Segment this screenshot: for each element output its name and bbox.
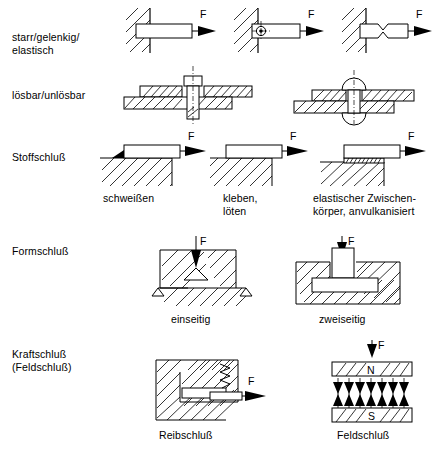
force-arrow — [185, 146, 206, 156]
force-label-kleben: F — [290, 130, 296, 142]
pole-north: N — [332, 362, 412, 376]
field-line — [399, 378, 409, 408]
field-lines — [333, 378, 409, 408]
support-right — [240, 288, 252, 296]
caption-kleben: kleben, löten — [223, 192, 258, 218]
field-line — [344, 378, 354, 408]
figure-starr: F — [118, 6, 218, 58]
diagram-sheet: starr/gelenkig/ elastisch F — [0, 0, 438, 454]
caption-schweissen: schweißen — [103, 192, 154, 205]
plate-upper-left — [312, 90, 346, 101]
pole-south: S — [332, 408, 412, 422]
figure-gelenkig: F — [226, 6, 326, 58]
caption-elastischer: elastischer Zwischen- körper, anvulkanis… — [313, 192, 416, 218]
force-arrow — [287, 146, 308, 156]
force-arrow — [245, 391, 266, 401]
bar-body — [124, 145, 180, 158]
base-body — [210, 158, 272, 186]
row-label-loesbar: lösbar/unlösbar — [12, 89, 85, 102]
force-label-f2: F — [308, 8, 314, 20]
bar-body — [226, 145, 282, 158]
caption-reibschluss: Reibschluß — [159, 429, 213, 442]
force-arrow — [306, 26, 324, 36]
figure-kleben: F — [210, 136, 330, 188]
force-arrow — [198, 26, 216, 36]
figure-zweiseitig: F — [294, 236, 406, 310]
spring — [220, 364, 230, 388]
t-element-flange — [312, 278, 378, 292]
row-label-starr: starr/gelenkig/ elastisch — [12, 31, 79, 57]
bar-body — [344, 145, 400, 158]
caption-einseitig: einseitig — [171, 313, 210, 326]
support-left — [152, 288, 164, 296]
figure-reibschluss: F — [152, 354, 268, 426]
caption-feldschluss: Feldschluß — [337, 429, 389, 442]
rod — [210, 392, 242, 400]
force-label-f1: F — [200, 8, 206, 20]
plate-upper-left — [140, 86, 182, 97]
figure-elastisch: F — [334, 6, 434, 58]
base-body — [320, 162, 384, 186]
plate-upper-right — [204, 86, 252, 97]
bar-necked-body — [360, 24, 408, 38]
row-label-formschluss: Formschluß — [12, 245, 68, 258]
force-label-zweiseitig: F — [348, 235, 354, 247]
force-label-elastischer: F — [408, 130, 414, 142]
force-arrow — [405, 146, 426, 156]
figure-elastischer-zwischenkoerper: F — [316, 136, 438, 188]
figure-einseitig: F — [150, 236, 254, 310]
field-line — [377, 378, 387, 408]
field-line — [366, 378, 376, 408]
bar-body — [136, 24, 192, 38]
row-label-stoffschluss: Stoffschluß — [12, 151, 65, 164]
field-line — [388, 378, 398, 408]
force-label-feldschluss: F — [378, 339, 384, 351]
plate-lower — [124, 97, 232, 109]
ground-body — [152, 288, 252, 306]
force-label-schweissen: F — [188, 130, 194, 142]
force-arrow — [191, 250, 201, 268]
figure-nietverbindung — [290, 64, 435, 124]
wedge-element — [184, 268, 208, 280]
row-label-kraftschluss: Kraftschluß (Feldschluß) — [12, 348, 72, 374]
force-label-einseitig: F — [200, 235, 206, 247]
force-arrow — [414, 26, 432, 36]
field-line — [333, 378, 343, 408]
weld-fillet — [112, 150, 124, 158]
base-body — [100, 158, 172, 186]
force-label-f3: F — [416, 8, 422, 20]
plate-lower — [294, 101, 394, 113]
pole-label-s: S — [368, 410, 375, 422]
field-line — [355, 378, 365, 408]
force-label-reibschluss: F — [248, 375, 254, 387]
force-arrow — [367, 344, 377, 358]
plate-upper-right — [362, 90, 414, 101]
figure-feldschluss: F N — [320, 340, 432, 426]
caption-zweiseitig: zweiseitig — [319, 313, 366, 326]
figure-schweissen: F — [96, 136, 216, 188]
figure-schraubverbindung — [120, 64, 270, 124]
t-element-stem — [332, 248, 354, 278]
block-right — [204, 250, 236, 288]
pole-label-n: N — [367, 364, 375, 376]
